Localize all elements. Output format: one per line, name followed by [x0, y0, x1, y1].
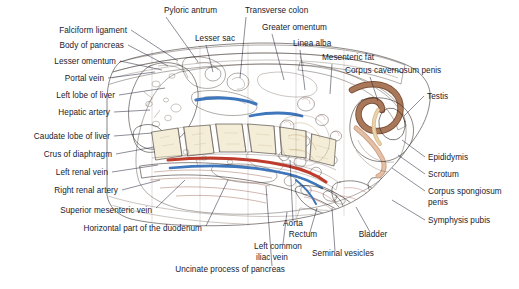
- label-rectum: Rectum: [289, 230, 318, 239]
- leader-epididymis: [402, 140, 425, 157]
- label-hepatic-artery: Hepatic artery: [58, 108, 111, 117]
- label-body-of-pancreas: Body of pancreas: [59, 41, 124, 50]
- label-crus-of-diaphragm: Crus of diaphragm: [44, 150, 112, 159]
- label-aorta: Aorta: [283, 219, 303, 228]
- label-epididymis: Epididymis: [428, 153, 468, 162]
- label-linea-alba: Linea alba: [293, 39, 332, 48]
- bladder-organ: [332, 181, 380, 216]
- label-left-common-iliac-vein-1: Left common: [254, 242, 302, 251]
- leader-left-renal-vein: [112, 165, 158, 172]
- label-lesser-sac: Lesser sac: [195, 34, 235, 43]
- label-mesenteric-fat: Mesenteric fat: [322, 53, 375, 62]
- leader-left-lobe-of-liver: [119, 88, 165, 95]
- leader-lesser-sac: [206, 45, 213, 72]
- anatomical-figure: Falciform ligamentBody of pancreasLesser…: [0, 0, 519, 289]
- label-left-lobe-of-liver: Left lobe of liver: [56, 91, 115, 100]
- transverse-colon-region: [227, 73, 249, 91]
- labels-bottom-group: AortaRectumBladderLeft commoniliac veinS…: [254, 219, 387, 262]
- leader-transverse-colon: [240, 17, 246, 78]
- labels-top-group: Pyloric antrumLesser sacTransverse colon…: [164, 6, 441, 75]
- leader-bladder: [356, 207, 370, 232]
- label-superior-mesenteric-vein: Superior mesenteric vein: [60, 206, 152, 215]
- leader-left-common-iliac-vein-2: [283, 212, 287, 244]
- leader-pyloric-antrum: [166, 17, 198, 62]
- portal-structures: [158, 65, 184, 121]
- leader-horizontal-part-of-the-duodenum: [206, 180, 228, 226]
- label-greater-omentum: Greater omentum: [262, 23, 327, 32]
- vertebral-column: [152, 124, 336, 170]
- label-corpus-spongiosum-penis-2: penis: [428, 198, 448, 207]
- label-pyloric-antrum: Pyloric antrum: [164, 6, 217, 15]
- leader-portal-vein: [108, 72, 155, 78]
- leader-linea-alba: [300, 50, 305, 90]
- label-testis: Testis: [427, 92, 448, 101]
- leader-hepatic-artery: [114, 110, 150, 112]
- leader-testis: [404, 96, 424, 116]
- leader-body-of-pancreas: [128, 45, 168, 66]
- label-bladder: Bladder: [359, 230, 388, 239]
- perineum-region: [296, 180, 406, 223]
- label-corpus-cavernosum-penis: Corpus cavernosum penis: [345, 66, 441, 75]
- label-left-renal-vein: Left renal vein: [56, 168, 109, 177]
- sagittal-section-illustration: Falciform ligamentBody of pancreasLesser…: [0, 0, 519, 289]
- prostate-region: [353, 201, 367, 212]
- leader-corpus-spongiosum-penis-1: [392, 168, 425, 191]
- label-transverse-colon: Transverse colon: [245, 6, 309, 15]
- label-falciform-ligament: Falciform ligament: [59, 26, 127, 35]
- leader-seminal-vesicles: [332, 208, 335, 251]
- label-symphysis-pubis: Symphysis pubis: [428, 216, 490, 225]
- leader-symphysis-pubis: [392, 200, 425, 220]
- pancreas-body: [192, 90, 257, 115]
- leader-mesenteric-fat: [330, 64, 332, 94]
- label-scrotum: Scrotum: [428, 170, 459, 179]
- leader-crus-of-diaphragm: [116, 147, 154, 154]
- leader-caudate-lobe-of-liver: [114, 133, 152, 136]
- labels-right-group: TestisEpididymisScrotumCorpus spongiosum…: [427, 92, 502, 225]
- label-lesser-omentum: Lesser omentum: [54, 57, 116, 66]
- leader-right-renal-artery: [122, 180, 160, 190]
- greater-omentum-region: [258, 72, 317, 97]
- label-caudate-lobe-of-liver: Caudate lobe of liver: [34, 132, 110, 141]
- label-uncinate-process-of-pancreas: Uncinate process of pancreas: [175, 265, 285, 274]
- label-seminal-vesicles: Seminal vesicles: [312, 249, 374, 258]
- label-left-common-iliac-vein-2: iliac vein: [256, 253, 288, 262]
- leader-scrotum: [398, 155, 425, 174]
- label-portal-vein: Portal vein: [65, 74, 105, 83]
- label-right-renal-artery: Right renal artery: [54, 186, 119, 195]
- leader-falciform-ligament: [131, 30, 178, 61]
- label-horizontal-part-of-the-duodenum: Horizontal part of the duodenum: [83, 224, 202, 233]
- label-corpus-spongiosum-penis-1: Corpus spongiosum: [428, 187, 502, 196]
- leader-rectum: [310, 208, 317, 232]
- leader-greater-omentum: [272, 34, 284, 80]
- leader-superior-mesenteric-vein: [156, 180, 185, 208]
- splenic-vessels: [196, 98, 302, 116]
